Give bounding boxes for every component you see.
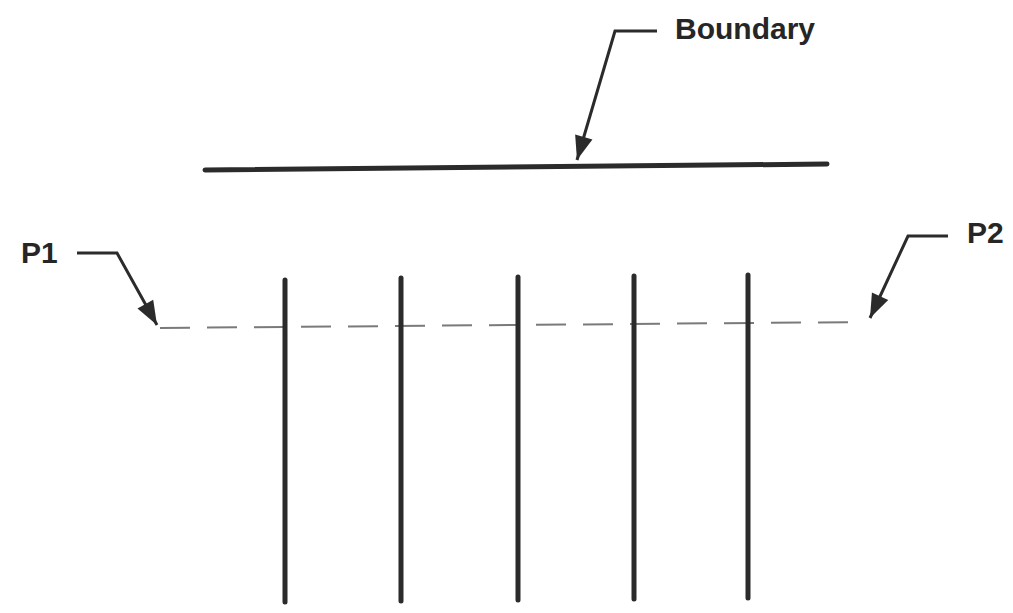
diagram-svg xyxy=(0,0,1013,613)
diagram-canvas: Boundary P1 P2 xyxy=(0,0,1013,613)
p1-callout-arrowhead-icon xyxy=(137,300,157,325)
p2-label: P2 xyxy=(967,218,1004,248)
callouts-group xyxy=(77,31,948,325)
p1-label: P1 xyxy=(21,238,58,268)
boundary-line xyxy=(205,164,827,170)
boundary-callout-arrowhead-icon xyxy=(575,134,592,160)
boundary-label: Boundary xyxy=(675,14,815,44)
p2-callout-arrowhead-icon xyxy=(870,292,888,318)
profile-line-p1-p2 xyxy=(160,322,865,328)
